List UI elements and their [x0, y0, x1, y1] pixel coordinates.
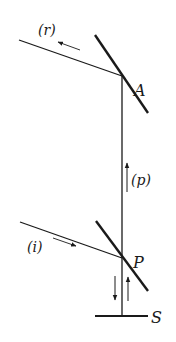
incident-arrow-icon — [53, 238, 76, 246]
optics-diagram: (r) A (p) (i) P S — [0, 0, 176, 342]
reflected-arrow-icon — [58, 42, 80, 50]
label-reflected: (r) — [38, 22, 56, 38]
label-surface: S — [151, 308, 162, 327]
reflected-ray — [19, 40, 122, 76]
label-incident: (i) — [27, 239, 42, 255]
label-mirror-a: A — [132, 81, 146, 100]
label-propagating: (p) — [131, 172, 151, 188]
label-mirror-p: P — [132, 253, 144, 272]
